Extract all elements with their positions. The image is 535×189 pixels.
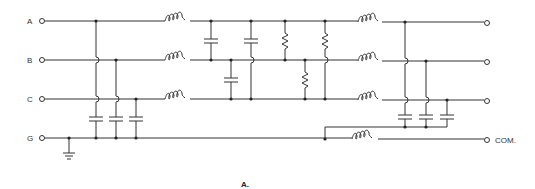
input-label-c: C <box>27 95 33 104</box>
input-label-b: B <box>27 56 32 65</box>
figure-caption: A. <box>241 180 249 189</box>
filter-circuit-diagram: A B C G COM. A. <box>0 0 535 189</box>
input-label-a: A <box>27 17 33 26</box>
input-label-g: G <box>27 134 33 143</box>
output-label-com: COM. <box>495 136 516 145</box>
